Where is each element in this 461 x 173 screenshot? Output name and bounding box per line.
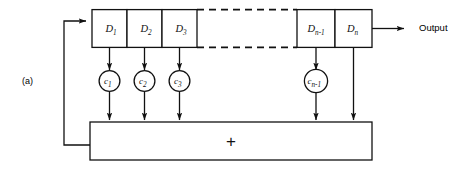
recursive-filter-diagram: D1 D2 D3 Dn-1 Dn xyxy=(0,0,461,173)
adder-plus-symbol: + xyxy=(226,132,236,151)
panel-label: (a) xyxy=(22,76,33,86)
diagram-canvas: D1 D2 D3 Dn-1 Dn xyxy=(0,0,461,173)
delay-box-dn-1: Dn-1 xyxy=(297,10,335,48)
coefficient-circle-c3: c3 xyxy=(169,71,190,92)
output-label: Output xyxy=(419,22,448,33)
delay-box-d2: D2 xyxy=(127,10,162,48)
coefficient-circle-c2: c2 xyxy=(134,71,155,92)
adder-block: + xyxy=(90,122,372,160)
delay-box-dn: Dn xyxy=(335,10,372,48)
feedback-path xyxy=(64,21,90,145)
delay-box-d3: D3 xyxy=(162,10,197,48)
coefficient-circle-cn-1: cn-1 xyxy=(304,69,327,92)
delay-box-d1: D1 xyxy=(92,10,127,48)
coefficient-circle-c1: c1 xyxy=(99,71,120,92)
